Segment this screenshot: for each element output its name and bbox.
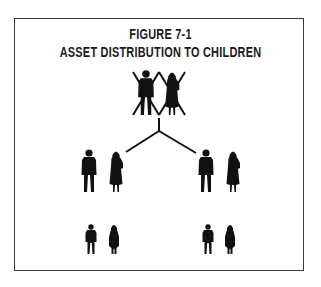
adult-children-left [82, 149, 124, 192]
distribution-branches [126, 118, 196, 153]
boy-figure-icon [86, 224, 97, 254]
woman-figure-icon [110, 152, 124, 193]
grandchildren-left [86, 224, 120, 254]
boy-figure-icon [203, 224, 214, 254]
girl-figure-icon [225, 225, 235, 254]
man-figure-icon [199, 149, 214, 192]
man-figure-icon [82, 149, 97, 192]
grandchildren-right [203, 224, 236, 254]
girl-figure-icon [109, 225, 119, 254]
woman-figure-icon [227, 152, 241, 193]
adult-children-right [199, 149, 241, 192]
diagram-art [0, 0, 321, 287]
